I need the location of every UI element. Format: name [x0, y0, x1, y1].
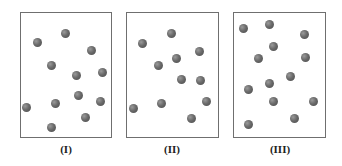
particle [154, 61, 163, 70]
particle [98, 68, 107, 77]
particle [87, 46, 96, 55]
particle [74, 91, 83, 100]
particle [96, 97, 105, 106]
panel-label-ii: (II) [142, 143, 202, 155]
particle [265, 20, 274, 29]
particle [195, 47, 204, 56]
particle [157, 99, 166, 108]
particle [72, 71, 81, 80]
particle [61, 29, 70, 38]
particle [239, 24, 248, 33]
particle [286, 72, 295, 81]
particle [244, 120, 253, 129]
particle [177, 75, 186, 84]
particle [301, 53, 310, 62]
particle [47, 123, 56, 132]
particle [22, 103, 31, 112]
particle [254, 54, 263, 63]
particle [269, 42, 278, 51]
particle [33, 38, 42, 47]
particle [138, 39, 147, 48]
particle [47, 61, 56, 70]
particle [269, 97, 278, 106]
particle [196, 76, 205, 85]
particle [167, 29, 176, 38]
particle [265, 79, 274, 88]
particle [172, 54, 181, 63]
particle [202, 97, 211, 106]
particle [81, 113, 90, 122]
panel-label-iii: (III) [250, 143, 310, 155]
particle [244, 85, 253, 94]
particle [309, 97, 318, 106]
particle [51, 99, 60, 108]
panel-label-i: (I) [36, 143, 96, 155]
particle [290, 114, 299, 123]
particle [187, 114, 196, 123]
particle [300, 30, 309, 39]
particle [129, 104, 138, 113]
